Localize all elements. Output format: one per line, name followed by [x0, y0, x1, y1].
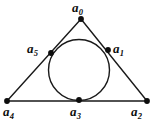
inscribed-circle: [49, 40, 110, 101]
point-label-a4-base: a: [3, 104, 10, 119]
point-label-a0-base: a: [72, 0, 79, 15]
point-label-a0-sub: 0: [79, 7, 83, 17]
point-a3-dot: [76, 97, 82, 103]
point-label-a3-base: a: [70, 104, 77, 119]
point-label-a2: a2: [131, 105, 142, 118]
point-label-a3-sub: 3: [77, 111, 81, 121]
point-label-a1: a1: [113, 42, 124, 55]
point-a5-dot: [48, 50, 54, 56]
point-a2-dot: [144, 98, 150, 104]
point-a1-dot: [105, 47, 111, 53]
point-label-a5-base: a: [27, 41, 34, 56]
point-label-a2-base: a: [131, 104, 138, 119]
point-label-a4: a4: [3, 105, 14, 118]
triangle-outline: [7, 19, 147, 101]
point-label-a0: a0: [72, 1, 83, 14]
inscribed-circle-diagram: a0 a1 a2 a3 a4 a5: [0, 0, 157, 123]
point-label-a4-sub: 4: [10, 111, 14, 121]
point-label-a3: a3: [70, 105, 81, 118]
point-label-a2-sub: 2: [138, 111, 142, 121]
point-label-a5: a5: [27, 42, 38, 55]
point-label-a1-base: a: [113, 41, 120, 56]
point-label-a1-sub: 1: [120, 48, 124, 58]
point-label-a5-sub: 5: [34, 48, 38, 58]
